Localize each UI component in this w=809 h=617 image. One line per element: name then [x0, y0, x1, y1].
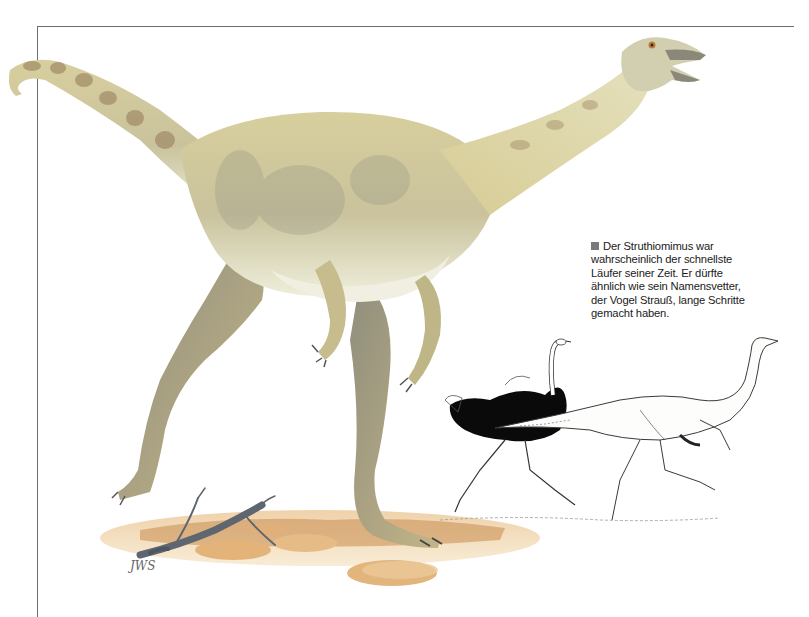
artist-signature: JWS: [127, 559, 155, 573]
caption-line: der Vogel Strauß, lange Schritte: [591, 294, 801, 307]
caption-line-text: Der Struthiomimus war: [603, 240, 714, 252]
caption-line: Der Struthiomimus war: [591, 240, 801, 253]
caption-line: ähnlich wie sein Namensvetter,: [591, 280, 801, 293]
caption-line: wahrscheinlich der schnellste: [591, 253, 801, 266]
caption: Der Struthiomimus war wahrscheinlich der…: [591, 240, 801, 320]
bullet-square-icon: [591, 242, 599, 250]
caption-line: gemacht haben.: [591, 307, 801, 320]
caption-line: Läufer seiner Zeit. Er dürfte: [591, 267, 801, 280]
